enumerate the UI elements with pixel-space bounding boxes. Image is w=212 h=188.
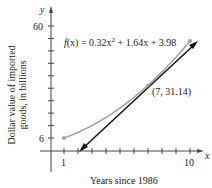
equation-suffix: + 1.64x + 3.98 [115, 37, 176, 48]
y-axis-title-line1: Dollar value of imported [6, 45, 17, 144]
curve-end-point [188, 39, 192, 43]
y-tick-label-60: 60 [33, 21, 43, 32]
x-axis-arrow-icon [197, 149, 204, 153]
y-tick-label-6: 6 [39, 133, 44, 144]
y-axis-title: Dollar value of imported goods, in billi… [6, 45, 28, 144]
tangent-point [146, 84, 150, 88]
equation-prefix: (x) = 0.32x [67, 37, 112, 49]
x-axis-symbol: x [204, 150, 210, 161]
y-axis-symbol: y [39, 4, 45, 15]
equation-label: f(x) = 0.32x2 + 1.64x + 3.98 [64, 36, 176, 49]
x-tick-label-10: 10 [184, 157, 194, 168]
x-tick-label-1: 1 [61, 157, 66, 168]
tangent-point-label: (7, 31.14) [152, 86, 191, 98]
y-axis-arrow-icon [49, 6, 53, 13]
y-axis-title-line2: goods, in billions [17, 60, 28, 129]
chart: y x 60 6 1 10 Years since 1986 Dollar va… [0, 0, 212, 188]
curve-start-point [62, 136, 66, 140]
x-axis-title: Years since 1986 [90, 175, 158, 186]
